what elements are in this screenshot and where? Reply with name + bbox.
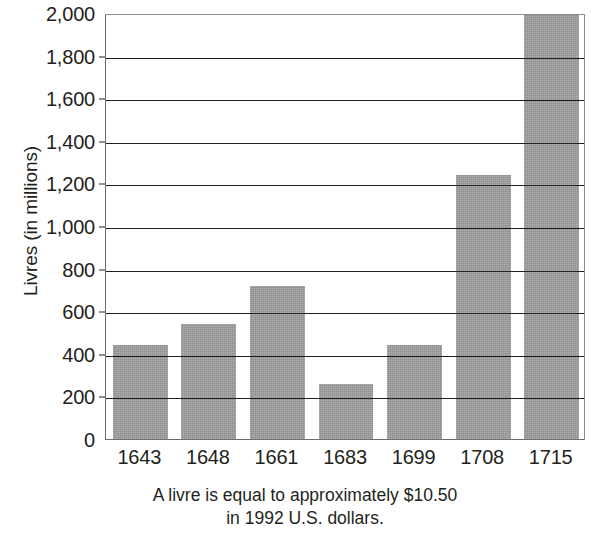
gridline [106, 313, 584, 314]
gridline [106, 271, 584, 272]
y-axis-tick-label: 1,600 [5, 88, 95, 111]
bar [387, 345, 442, 439]
y-axis-tick-label: 1,000 [5, 216, 95, 239]
y-axis-tick-label: 1,200 [5, 173, 95, 196]
x-axis-tick-label: 1699 [392, 446, 436, 469]
y-axis-tick-label: 400 [5, 343, 95, 366]
gridline [106, 398, 584, 399]
gridline [106, 100, 584, 101]
plot-area [105, 14, 585, 440]
y-axis-tick-label: 0 [5, 429, 95, 452]
bar [250, 286, 305, 439]
y-axis-tick-label: 600 [5, 301, 95, 324]
bar [319, 384, 374, 439]
chart-caption: A livre is equal to approximately $10.50… [0, 484, 610, 530]
caption-line-1: A livre is equal to approximately $10.50 [0, 484, 610, 507]
y-axis-tick-label: 800 [5, 258, 95, 281]
y-axis-tick-label: 200 [5, 386, 95, 409]
bar [113, 345, 168, 439]
y-axis-tick-label: 1,400 [5, 130, 95, 153]
bar-chart-figure: Livres (in millions) 02004006008001,0001… [0, 0, 610, 534]
bar-group [106, 15, 584, 439]
y-axis-tick-label: 1,800 [5, 45, 95, 68]
x-axis-tick-label: 1661 [255, 446, 299, 469]
gridline [106, 143, 584, 144]
x-axis-tick-label: 1648 [186, 446, 230, 469]
gridline [106, 356, 584, 357]
gridline [106, 58, 584, 59]
x-axis-tick-label: 1643 [117, 446, 161, 469]
x-axis-tick-label: 1708 [460, 446, 504, 469]
gridline [106, 185, 584, 186]
gridline [106, 228, 584, 229]
caption-line-2: in 1992 U.S. dollars. [0, 507, 610, 530]
x-axis-tick-label: 1683 [323, 446, 367, 469]
x-axis-tick-label: 1715 [529, 446, 573, 469]
y-axis-tick-label: 2,000 [5, 3, 95, 26]
bar [181, 324, 236, 439]
